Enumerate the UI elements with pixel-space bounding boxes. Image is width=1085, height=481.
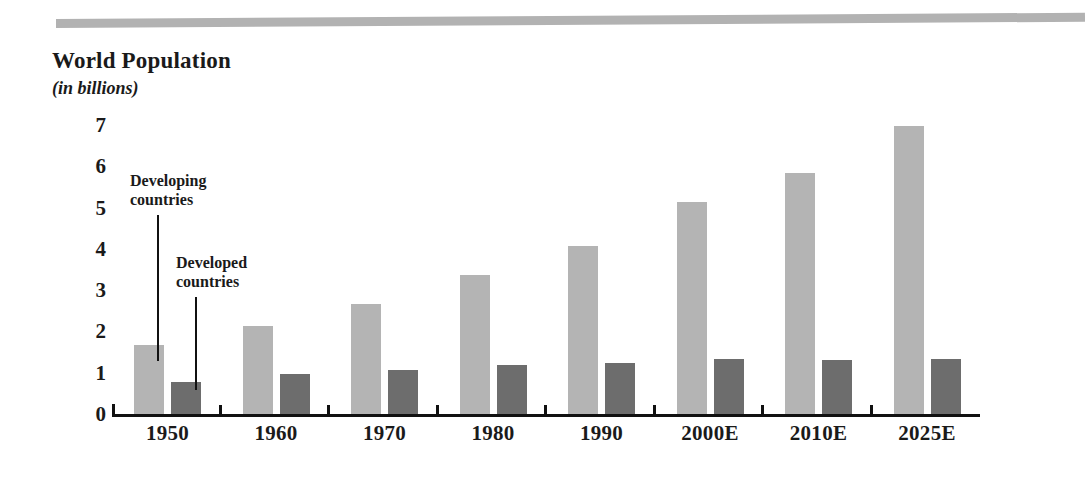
x-axis-tick xyxy=(653,405,656,417)
bar-developed-1970 xyxy=(388,370,418,415)
bar-developed-1980 xyxy=(497,365,527,415)
callout-developing: Developing countries xyxy=(130,172,206,210)
x-axis-tick-label-1990: 1990 xyxy=(547,421,657,446)
x-axis-tick-label-1980: 1980 xyxy=(438,421,548,446)
bar-developing-2010E xyxy=(785,173,815,415)
bar-developing-2025E xyxy=(894,126,924,415)
chart-plot-area: 01234567 195019601970198019902000E2010E2… xyxy=(0,0,1085,481)
x-axis-tick xyxy=(544,405,547,417)
bar-developing-1950 xyxy=(134,345,164,415)
bar-developing-1960 xyxy=(243,326,273,415)
bar-developed-2010E xyxy=(822,360,852,415)
x-axis-tick-label-2025E: 2025E xyxy=(872,421,982,446)
callout-developed-leader-line xyxy=(195,297,197,390)
x-axis-tick-label-1970: 1970 xyxy=(330,421,440,446)
callout-developing-leader-line xyxy=(157,215,159,361)
bar-developed-2000E xyxy=(714,359,744,415)
x-axis-tick-label-2010E: 2010E xyxy=(764,421,874,446)
callout-developed: Developed countries xyxy=(176,254,247,292)
callout-developing-line2: countries xyxy=(130,191,206,210)
x-axis-tick xyxy=(327,405,330,417)
x-axis-tick xyxy=(436,405,439,417)
x-axis-tick-label-2000E: 2000E xyxy=(655,421,765,446)
bar-developing-2000E xyxy=(677,202,707,415)
bar-developed-1990 xyxy=(605,363,635,415)
bar-developed-2025E xyxy=(931,359,961,415)
callout-developed-line2: countries xyxy=(176,273,247,292)
bar-developing-1970 xyxy=(351,304,381,416)
callout-developing-line1: Developing xyxy=(130,172,206,191)
bar-developing-1990 xyxy=(568,246,598,415)
x-axis-tick xyxy=(761,405,764,417)
x-axis-tick-label-1960: 1960 xyxy=(221,421,331,446)
x-axis-tick xyxy=(870,405,873,417)
origin-tick xyxy=(112,404,115,417)
bar-developing-1980 xyxy=(460,275,490,415)
bar-developed-1960 xyxy=(280,374,310,415)
callout-developed-line1: Developed xyxy=(176,254,247,273)
x-axis-tick xyxy=(219,405,222,417)
x-axis-tick-label-1950: 1950 xyxy=(113,421,223,446)
